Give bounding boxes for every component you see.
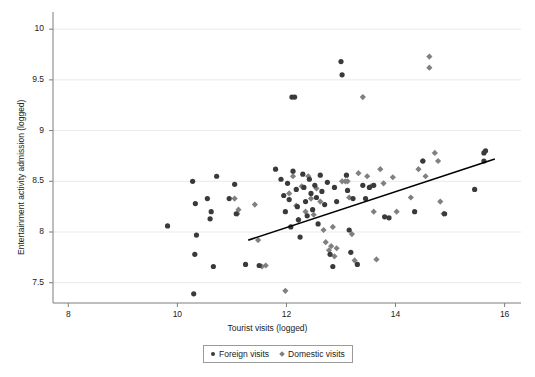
y-tick-label: 8.5 xyxy=(14,175,44,185)
y-tick-label: 10 xyxy=(14,23,44,33)
x-tick-label: 10 xyxy=(162,309,192,319)
y-tick-label: 7.5 xyxy=(14,277,44,287)
x-tick-label: 8 xyxy=(53,309,83,319)
legend-label-foreign-visits: Foreign visits xyxy=(219,349,269,359)
legend-item-foreign-visits: Foreign visits xyxy=(211,349,269,359)
y-tick-label: 9 xyxy=(14,125,44,135)
circle-marker-icon xyxy=(211,352,215,356)
scatter-plot-figure: Entertainment activity admission (logged… xyxy=(0,0,535,377)
y-tick-label: 8 xyxy=(14,226,44,236)
series-domestic-visits xyxy=(232,53,447,293)
legend-item-domestic-visits: Domestic visits xyxy=(280,349,345,359)
gridlines xyxy=(53,29,521,283)
chart-legend: Foreign visits Domestic visits xyxy=(203,345,353,363)
x-axis-title: Tourist visits (logged) xyxy=(0,323,535,333)
diamond-marker-icon xyxy=(279,351,285,357)
y-tick-label: 9.5 xyxy=(14,74,44,84)
plot-canvas xyxy=(0,0,535,377)
x-tick-label: 12 xyxy=(271,309,301,319)
regression-line xyxy=(248,159,495,240)
axis-lines xyxy=(53,12,521,303)
legend-label-domestic-visits: Domestic visits xyxy=(288,349,345,359)
x-tick-label: 16 xyxy=(490,309,520,319)
x-tick-label: 14 xyxy=(381,309,411,319)
